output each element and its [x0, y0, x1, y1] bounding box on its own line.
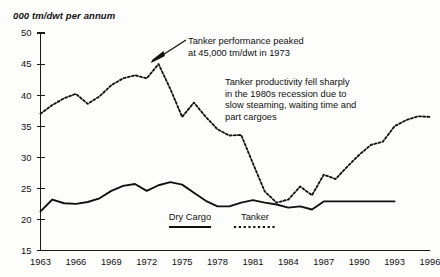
y-tick-labels: 1520253035404550 — [21, 27, 31, 256]
x-tick-label-1993: 1993 — [384, 256, 405, 267]
legend-label-tanker: Tanker — [241, 212, 269, 222]
series-line-dry-cargo — [41, 182, 395, 211]
x-tick-labels: 1963196619691972197519781981198419871990… — [30, 256, 440, 267]
chart-legend: Dry Cargo Tanker — [168, 212, 277, 229]
x-tick-label-1966: 1966 — [65, 256, 86, 267]
y-tick-label-40: 40 — [21, 90, 31, 101]
y-tick-label-25: 25 — [21, 183, 31, 194]
x-tick-label-1969: 1969 — [101, 256, 122, 267]
annotation-recession-line-1: Tanker productivity fell sharply — [225, 77, 356, 89]
x-tick-label-1978: 1978 — [207, 256, 228, 267]
chart-container: 000 tm/dwt per annum 1520253035404550 19… — [0, 0, 440, 277]
y-tick-label-35: 35 — [21, 121, 31, 132]
x-tick-label-1972: 1972 — [136, 256, 157, 267]
annotation-peak-line-2: at 45,000 tm/dwt in 1973 — [188, 48, 304, 60]
legend-swatch-solid-icon — [168, 225, 212, 229]
annotation-recession-note: Tanker productivity fell sharply in the … — [225, 77, 356, 123]
legend-item-tanker: Tanker — [233, 212, 277, 229]
x-tick-label-1975: 1975 — [172, 256, 193, 267]
y-tick-label-30: 30 — [21, 152, 31, 163]
annotation-recession-line-3: slow steaming, waiting time and — [225, 100, 356, 112]
x-tick-label-1984: 1984 — [278, 256, 299, 267]
y-tick-label-20: 20 — [21, 214, 31, 225]
x-tick-label-1981: 1981 — [243, 256, 264, 267]
x-tick-label-1987: 1987 — [313, 256, 334, 267]
y-tick-label-15: 15 — [21, 245, 31, 256]
x-tick-label-1990: 1990 — [349, 256, 370, 267]
legend-swatch-dashed-icon — [233, 225, 277, 229]
y-tick-label-50: 50 — [21, 27, 31, 38]
annotation-peak-line-1: Tanker performance peaked — [188, 36, 304, 48]
annotation-recession-line-4: part cargoes — [225, 112, 356, 124]
annotation-peak-callout: Tanker performance peaked at 45,000 tm/d… — [188, 36, 304, 59]
peak-arrow — [151, 40, 186, 63]
y-tick-label-45: 45 — [21, 58, 31, 69]
legend-label-dry-cargo: Dry Cargo — [169, 212, 211, 222]
legend-item-dry-cargo: Dry Cargo — [168, 212, 212, 229]
x-tick-label-1963: 1963 — [30, 256, 51, 267]
annotation-recession-line-2: in the 1980s recession due to — [225, 89, 356, 101]
x-tick-label-1996: 1996 — [420, 256, 440, 267]
